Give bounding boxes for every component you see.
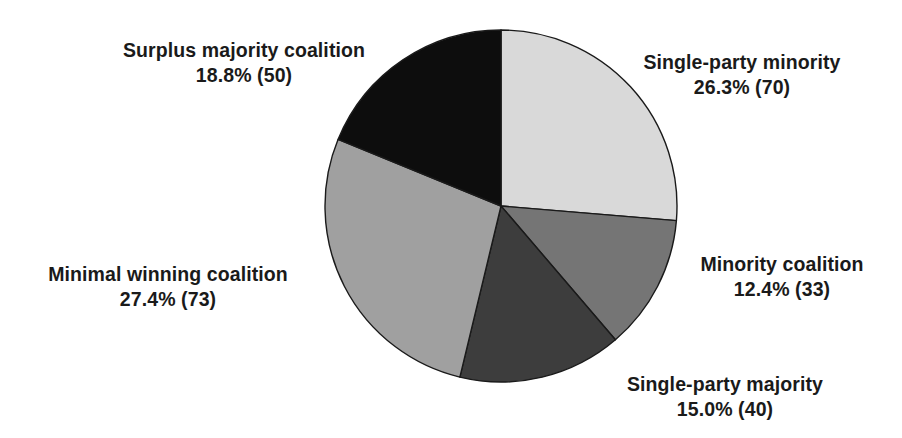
slice-label-name: Surplus majority coalition bbox=[104, 38, 384, 63]
slice-label-value: 26.3% (70) bbox=[612, 75, 872, 100]
slice-label-minimal-winning-coalition: Minimal winning coalition 27.4% (73) bbox=[18, 262, 318, 312]
slice-label-name: Minimal winning coalition bbox=[18, 262, 318, 287]
slice-label-value: 12.4% (33) bbox=[672, 277, 892, 302]
pie-chart-figure: Surplus majority coalition 18.8% (50) Si… bbox=[0, 0, 902, 438]
slice-label-surplus-majority-coalition: Surplus majority coalition 18.8% (50) bbox=[104, 38, 384, 88]
slice-label-single-party-minority: Single-party minority 26.3% (70) bbox=[612, 50, 872, 100]
slice-label-single-party-majority: Single-party majority 15.0% (40) bbox=[580, 372, 870, 422]
slice-label-name: Single-party minority bbox=[612, 50, 872, 75]
slice-label-value: 27.4% (73) bbox=[18, 287, 318, 312]
slice-label-value: 18.8% (50) bbox=[104, 63, 384, 88]
slice-label-name: Single-party majority bbox=[580, 372, 870, 397]
slice-label-name: Minority coalition bbox=[672, 252, 892, 277]
slice-label-value: 15.0% (40) bbox=[580, 397, 870, 422]
slice-label-minority-coalition: Minority coalition 12.4% (33) bbox=[672, 252, 892, 302]
